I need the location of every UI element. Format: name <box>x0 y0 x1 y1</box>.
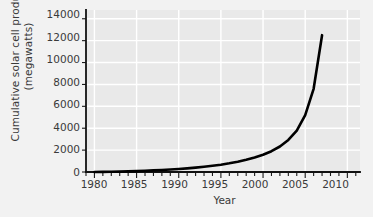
axis-lines <box>86 10 360 172</box>
chart-svg-overlay <box>0 0 373 217</box>
chart-figure: Cumulative solar cell production (megawa… <box>0 0 373 217</box>
gridlines <box>86 10 360 172</box>
data-line-cumulative-solar-cell-production <box>94 35 322 172</box>
axis-ticks <box>82 19 356 178</box>
